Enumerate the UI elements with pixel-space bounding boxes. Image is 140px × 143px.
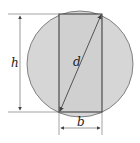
label-h: h [11, 56, 19, 70]
label-d: d [73, 55, 81, 69]
label-b: b [77, 115, 85, 129]
diagram: h d b [0, 0, 140, 143]
